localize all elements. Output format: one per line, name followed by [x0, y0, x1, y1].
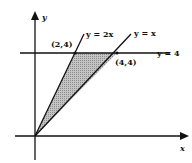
point-2-4-marker [73, 51, 76, 54]
label-y-equals-x: y = x [133, 28, 156, 38]
label-point-2-4: (2,4) [51, 39, 73, 49]
line-y-equals-x [35, 34, 131, 136]
y-axis-arrow-icon [31, 11, 39, 20]
label-y-equals-4: y = 4 [156, 48, 180, 58]
label-y-equals-2x: y = 2x [85, 29, 113, 39]
diagram-canvas: y x y = 2x y = x y = 4 (2,4) (4,4) [0, 0, 192, 163]
x-axis-label: x [179, 143, 185, 153]
point-4-4-marker [115, 51, 118, 54]
x-axis-arrow-icon [180, 132, 189, 140]
y-axis-label: y [41, 12, 48, 22]
label-point-4-4: (4,4) [115, 57, 137, 67]
